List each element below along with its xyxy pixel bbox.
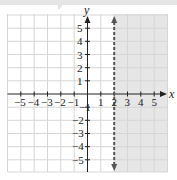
y-axis: [85, 20, 90, 172]
x-tick-label: 3: [125, 96, 131, 108]
y-axis-arrow-icon: [85, 16, 91, 23]
x-axis-label: x: [168, 87, 175, 101]
y-tick-label: −4: [72, 140, 84, 152]
x-tick-label: −2: [54, 96, 66, 108]
y-tick-label: 3: [77, 49, 83, 61]
y-tick-label: −3: [72, 127, 84, 139]
y-tick-label: 2: [77, 62, 83, 74]
x-tick-label: 2: [112, 96, 118, 108]
y-tick-label: 4: [77, 35, 83, 47]
x-tick-label: 4: [138, 96, 144, 108]
x-tick-label: −1: [68, 96, 80, 108]
y-tick-label: −5: [72, 154, 84, 166]
x-tick-label: −5: [14, 96, 26, 108]
y-tick-label: 1: [77, 75, 83, 87]
x-tick-label: 5: [152, 96, 158, 108]
coordinate-plane: x y −5 −4 −3 −2 −1 1 2 3 4 5 5 4 3 2 1 −…: [0, 0, 177, 180]
y-axis-label: y: [83, 3, 90, 17]
x-tick-label: −4: [28, 96, 40, 108]
x-tick-label: −3: [41, 96, 53, 108]
y-tick-label: 5: [77, 22, 83, 34]
y-tick-label: −2: [72, 114, 84, 126]
y-tick-label: −1: [79, 101, 91, 113]
x-tick-label: 1: [98, 96, 104, 108]
